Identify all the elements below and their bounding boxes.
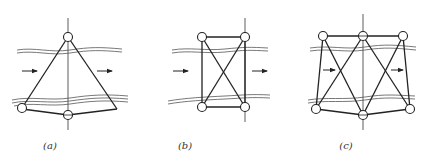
- panel-b: [168, 18, 270, 122]
- node-icon: [312, 105, 321, 114]
- node-icon: [319, 32, 328, 41]
- node-icon: [241, 33, 250, 42]
- node-icon: [64, 33, 73, 42]
- panel-c-label: (c): [326, 140, 366, 151]
- node-icon: [406, 105, 415, 114]
- panel-b-label: (b): [165, 140, 205, 151]
- upper-band: [17, 48, 122, 51]
- upper-band: [172, 47, 268, 50]
- node-icon: [399, 32, 408, 41]
- panel-a: [12, 18, 128, 130]
- node-icon: [198, 103, 207, 112]
- panel-c: [308, 14, 416, 130]
- node-icon: [198, 33, 207, 42]
- panel-a-label: (a): [30, 140, 70, 151]
- node-icon: [241, 103, 250, 112]
- node-icon: [18, 104, 27, 113]
